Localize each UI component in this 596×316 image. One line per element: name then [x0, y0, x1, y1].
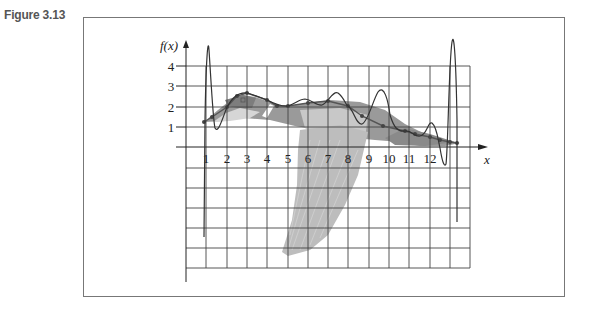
svg-text:7: 7	[325, 151, 332, 166]
svg-text:11: 11	[403, 151, 416, 166]
y-tick-label: 1	[168, 120, 175, 135]
svg-text:6: 6	[305, 151, 312, 166]
y-axis-arrow-icon	[183, 40, 189, 48]
y-tick-label: 2	[168, 100, 175, 115]
svg-text:5: 5	[285, 151, 292, 166]
svg-text:1: 1	[203, 151, 210, 166]
svg-text:4: 4	[264, 151, 271, 166]
x-axis-label: x	[483, 152, 490, 167]
svg-text:3: 3	[244, 151, 251, 166]
svg-text:9: 9	[366, 151, 373, 166]
x-axis-arrow-icon	[478, 144, 488, 150]
y-tick-label: 3	[168, 79, 175, 94]
svg-text:8: 8	[345, 151, 352, 166]
grid	[186, 66, 470, 268]
interpolation-plot: f(x) x 4 3 2 1 1 2 3 4 5 6 7 8 9 10 11 1…	[0, 0, 596, 316]
svg-text:10: 10	[383, 151, 396, 166]
duck-illustration	[204, 95, 460, 256]
svg-text:2: 2	[224, 151, 231, 166]
svg-text:12: 12	[424, 151, 437, 166]
y-axis-label: f(x)	[160, 38, 178, 53]
y-tick-label: 4	[168, 59, 175, 74]
